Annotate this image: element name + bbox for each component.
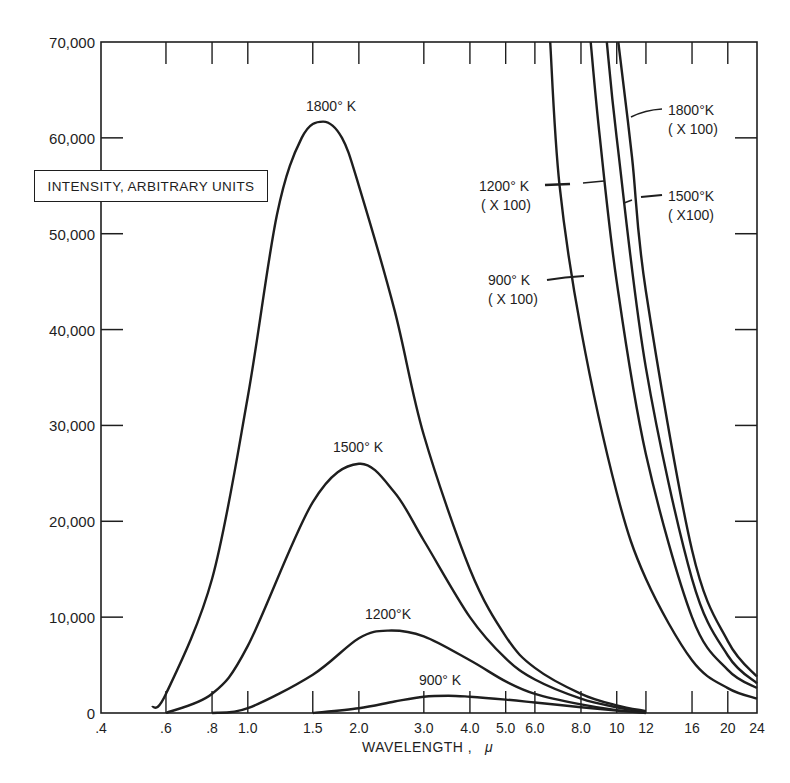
label-1800k: 1800° K xyxy=(306,98,357,114)
x-tick-label: 10 xyxy=(609,720,625,736)
svg-text:( X 100): ( X 100) xyxy=(481,197,531,213)
x-tick-label: 12 xyxy=(638,720,654,736)
x-tick-label: 3.0 xyxy=(414,720,434,736)
x-tick-label: .6 xyxy=(160,720,172,736)
svg-text:( X100): ( X100) xyxy=(668,207,714,223)
svg-text:900° K: 900° K xyxy=(488,272,531,288)
curve-900-k-x-100 xyxy=(550,42,757,699)
label-900k-x100: 900° K ( X 100) xyxy=(488,272,584,307)
label-1200k: 1200°K xyxy=(365,606,412,622)
label-1200k-x100: 1200° K ( X 100) xyxy=(479,178,604,213)
y-tick-label: 50,000 xyxy=(49,226,95,243)
svg-text:1500°K: 1500°K xyxy=(668,188,715,204)
x-tick-label: 2.0 xyxy=(349,720,369,736)
x-axis-ticks: .4.6.81.01.52.03.04.05.06.08.01012162024 xyxy=(95,42,765,736)
label-1800k-x100: 1800°K ( X 100) xyxy=(631,102,718,137)
label-900k: 900° K xyxy=(419,672,462,688)
curves xyxy=(152,42,757,713)
svg-text:WAVELENGTH ,: WAVELENGTH , xyxy=(362,739,472,755)
x-tick-label: 6.0 xyxy=(525,720,545,736)
svg-text:μ: μ xyxy=(484,739,493,755)
y-tick-label: 30,000 xyxy=(49,417,95,434)
x-tick-label: 1.5 xyxy=(303,720,323,736)
svg-text:( X 100): ( X 100) xyxy=(668,121,718,137)
svg-text:1200° K: 1200° K xyxy=(479,178,530,194)
x-tick-label: 24 xyxy=(749,720,765,736)
svg-text:( X 100): ( X 100) xyxy=(488,291,538,307)
y-tick-label: 0 xyxy=(87,705,95,722)
blackbody-chart: 010,00020,00030,00040,00050,00060,00070,… xyxy=(0,0,790,783)
svg-text:1800°K: 1800°K xyxy=(668,102,715,118)
x-tick-label: 4.0 xyxy=(460,720,480,736)
curve-1500-k xyxy=(166,464,646,713)
y-tick-label: 60,000 xyxy=(49,130,95,147)
x-tick-label: 1.0 xyxy=(238,720,258,736)
y-tick-label: 20,000 xyxy=(49,513,95,530)
x-tick-label: .8 xyxy=(206,720,218,736)
y-tick-label: 10,000 xyxy=(49,609,95,626)
x-tick-label: 16 xyxy=(684,720,700,736)
label-1500k: 1500° K xyxy=(333,439,384,455)
curve-1800-k xyxy=(152,122,646,712)
y-tick-label: 70,000 xyxy=(49,34,95,51)
x-tick-label: 20 xyxy=(720,720,736,736)
x-tick-label: 8.0 xyxy=(571,720,591,736)
x-tick-label: 5.0 xyxy=(496,720,516,736)
x-tick-label: .4 xyxy=(95,720,107,736)
y-tick-label: 40,000 xyxy=(49,322,95,339)
x-axis-title: WAVELENGTH , μ xyxy=(362,739,493,755)
y-axis-title: INTENSITY, ARBITRARY UNITS xyxy=(34,170,268,202)
